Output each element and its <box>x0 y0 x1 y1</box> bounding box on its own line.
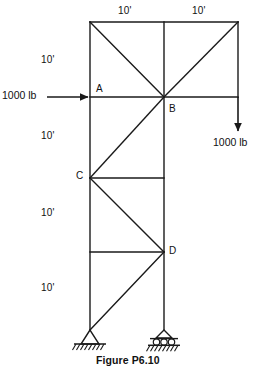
load-label-horizontal: 1000 lb <box>2 90 36 101</box>
joint-label-b: B <box>169 104 176 114</box>
pin-support-hatching <box>73 344 105 350</box>
truss-members <box>90 22 238 330</box>
dim-label-panel-1: 10' <box>41 55 55 65</box>
dim-label-panel-3: 10' <box>41 208 55 218</box>
roller-support <box>147 330 181 351</box>
member-diagonal-c-d <box>90 178 164 252</box>
truss-figure: 10' 10' 10' 10' 10' 10' A B C D 1000 lb … <box>0 0 266 369</box>
member-diagonal-topright-b <box>164 22 238 97</box>
load-label-vertical: 1000 lb <box>213 137 247 148</box>
pin-support <box>73 330 107 350</box>
dim-label-panel-2: 10' <box>41 131 55 141</box>
roller-support-wheels <box>153 339 174 345</box>
member-diagonal-base-d <box>90 252 164 330</box>
figure-caption: Figure P6.10 <box>96 355 160 366</box>
dim-label-panel-4: 10' <box>41 283 55 293</box>
joint-label-a: A <box>96 84 103 94</box>
joint-label-d: D <box>169 246 176 256</box>
roller-support-hatching <box>147 345 179 351</box>
truss-diagram-svg <box>0 0 266 369</box>
joint-label-c: C <box>76 171 83 181</box>
dim-label-top-right-span: 10' <box>192 6 206 16</box>
member-diagonal-c-b <box>90 97 164 178</box>
dim-label-top-left-span: 10' <box>118 6 132 16</box>
